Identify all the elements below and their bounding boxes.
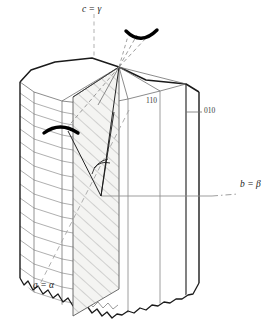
axis-label-b-text: b = β — [240, 179, 261, 189]
face-label-010: 010 — [204, 107, 215, 115]
face-label-110: 110 — [146, 97, 157, 105]
axis-label-b: b = β — [240, 180, 261, 190]
axis-label-c-text: c = γ — [82, 4, 101, 14]
axis-label-a-text: a = α — [33, 280, 54, 290]
crystal-figure: c = γ b = β a = α 110 010 — [0, 0, 277, 335]
optic-axis-arc-upper — [126, 30, 157, 38]
axis-label-c: c = γ — [82, 5, 101, 15]
axis-label-a: a = α — [33, 281, 54, 291]
